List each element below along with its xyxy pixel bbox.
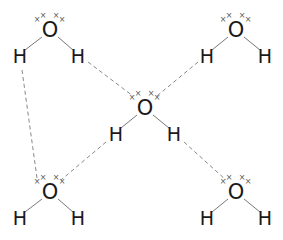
lone-pair-marker: × <box>59 177 66 186</box>
hydrogen-atom: H <box>13 207 27 229</box>
oxygen-atom: O <box>228 18 245 42</box>
hbond-topleft-center <box>88 62 133 96</box>
lone-pair-marker: × <box>245 177 252 186</box>
covalent-bond <box>25 199 42 212</box>
oxygen-atom: O <box>42 180 59 204</box>
hydrogen-atom: H <box>258 207 272 229</box>
hydrogen-atom: H <box>109 123 123 145</box>
hbond-topleft-bottomleft <box>22 70 37 178</box>
molecule-bottom-left: × × × × O H H <box>13 173 85 230</box>
water-hydrogen-bonding-diagram: × × × × O H H × × × × O H H × × × × O <box>0 0 283 240</box>
hydrogen-atom: H <box>13 45 27 67</box>
hydrogen-atom: H <box>258 45 272 67</box>
molecule-center: × × × × O H H <box>109 89 181 146</box>
hydrogen-atom: H <box>200 207 214 229</box>
hydrogen-atom: H <box>71 45 85 67</box>
molecule-top-left: × × × × O H H <box>13 11 85 68</box>
oxygen-atom: O <box>137 96 154 120</box>
hydrogen-atom: H <box>200 45 214 67</box>
oxygen-atom: O <box>42 18 59 42</box>
covalent-bond <box>212 199 228 212</box>
oxygen-atom: O <box>228 180 245 204</box>
hbond-center-bottomright <box>184 142 226 180</box>
lone-pair-marker: × <box>59 15 66 24</box>
molecule-bottom-right: × × × × O H H <box>200 173 272 230</box>
lone-pair-marker: × <box>154 93 161 102</box>
diagram-canvas: × × × × O H H × × × × O H H × × × × O <box>0 0 283 240</box>
lone-pair-marker: × <box>245 15 252 24</box>
molecule-top-right: × × × × O H H <box>200 11 272 68</box>
covalent-bond <box>212 37 228 50</box>
hydrogen-atom: H <box>71 207 85 229</box>
hydrogen-bonds <box>22 62 226 180</box>
hbond-center-bottomleft <box>61 142 106 180</box>
covalent-bond <box>25 37 42 50</box>
hbond-topright-center <box>157 62 198 96</box>
hydrogen-atom: H <box>167 123 181 145</box>
covalent-bond <box>121 115 137 128</box>
